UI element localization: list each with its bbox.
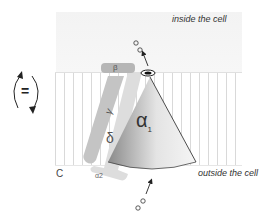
equilibrium-sign: = xyxy=(21,83,29,99)
ion-arrow-in xyxy=(136,181,151,210)
beta-subunit xyxy=(101,63,135,73)
delta-label: δ xyxy=(106,130,114,146)
beta-label: β xyxy=(113,63,118,72)
alpha1-label: α1 xyxy=(136,109,152,134)
alpha2-label: α2 xyxy=(95,172,103,179)
alpha1-symbol: α xyxy=(136,109,148,131)
ion-arrow-out xyxy=(134,41,148,66)
channel-diagram xyxy=(0,0,276,213)
alpha1-subscript: 1 xyxy=(148,125,152,134)
